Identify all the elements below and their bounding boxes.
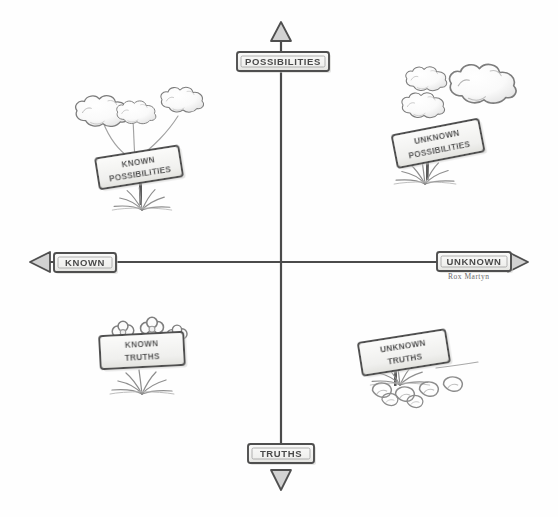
quad-label-line2: TRUTHS (125, 352, 161, 363)
sign-board-known-possibilities: KNOWN POSSIBILITIES (95, 145, 186, 192)
axis-label-possibilities-text: POSSIBILITIES (245, 56, 321, 67)
axis-label-truths-text: TRUTHS (260, 448, 302, 459)
balloon-cloud-icon (161, 87, 204, 112)
sign-board-unknown-possibilities: UNKNOWN POSSIBILITIES (392, 118, 488, 170)
quadrant-known-truths: KNOWN TRUTHS (99, 317, 187, 394)
artist-signature: Rox Martyn (448, 272, 489, 281)
balloon-string (103, 122, 130, 158)
axis-label-unknown: UNKNOWN (437, 252, 513, 273)
axis-label-unknown-text: UNKNOWN (447, 256, 502, 267)
floating-cloud-icon (402, 93, 445, 118)
arrow-left-icon (30, 252, 50, 272)
floating-cloud-icon (450, 64, 516, 103)
axis-label-possibilities: POSSIBILITIES (237, 52, 331, 73)
floating-cloud-icon (406, 67, 447, 91)
axis-label-known-text: KNOWN (65, 257, 105, 268)
quadrant-known-possibilities: KNOWN POSSIBILITIES (76, 87, 204, 210)
seed-icon (373, 383, 392, 397)
quadrant-diagram-svg: POSSIBILITIES TRUTHS KNOWN UNKNOWN Rox M… (0, 0, 558, 517)
quadrant-unknown-truths: UNKNOWN TRUTHS (358, 329, 478, 408)
seed-icon (420, 382, 439, 396)
seed-icon (444, 377, 463, 391)
diagram-canvas: POSSIBILITIES TRUTHS KNOWN UNKNOWN Rox M… (0, 0, 558, 517)
axis-label-truths: TRUTHS (248, 444, 316, 465)
quad-label-line1: KNOWN (125, 339, 159, 350)
axis-label-known: KNOWN (54, 253, 118, 274)
quadrant-unknown-possibilities: UNKNOWN POSSIBILITIES (392, 64, 516, 184)
arrow-up-icon (271, 22, 291, 41)
sign-board-known-truths: KNOWN TRUTHS (99, 332, 187, 372)
arrow-down-icon (271, 470, 291, 490)
sign-board-unknown-truths: UNKNOWN TRUTHS (358, 329, 453, 378)
